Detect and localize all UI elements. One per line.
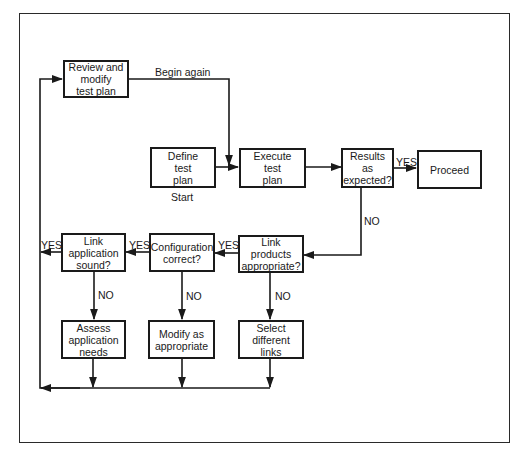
results-yes-label: YES	[396, 156, 417, 168]
link-application-sound-box: Link application sound?	[61, 233, 126, 272]
define-test-plan-box: Define test plan	[150, 147, 216, 188]
proceed-box: Proceed	[417, 150, 482, 189]
link-products-no-label: NO	[275, 290, 291, 302]
link-application-yes-label: YES	[41, 239, 62, 251]
execute-test-plan-box: Execute test plan	[239, 148, 306, 188]
configuration-no-label: NO	[186, 290, 202, 302]
review-modify-test-plan-box: Review and modify test plan	[63, 60, 129, 98]
link-products-appropriate-box: Link products appropriate?	[238, 235, 304, 273]
link-application-no-label: NO	[98, 289, 114, 301]
configuration-yes-label: YES	[129, 239, 150, 251]
select-different-links-box: Select different links	[238, 320, 304, 359]
results-as-expected-box: Results as expected?	[341, 148, 394, 188]
configuration-correct-box: Configuration correct?	[149, 233, 215, 272]
start-label: Start	[171, 191, 193, 203]
link-products-yes-label: YES	[218, 239, 239, 251]
modify-as-appropriate-box: Modify as appropriate	[148, 320, 215, 359]
assess-application-needs-box: Assess application needs	[61, 320, 126, 359]
begin-again-label: Begin again	[155, 66, 210, 78]
results-no-label: NO	[364, 215, 380, 227]
